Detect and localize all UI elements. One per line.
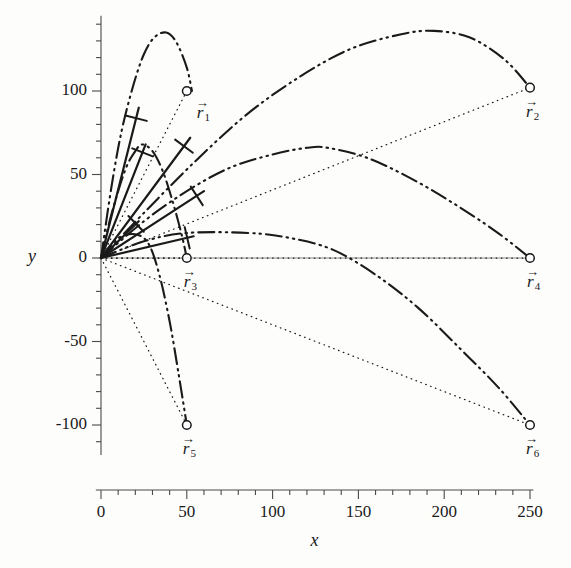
vector-label-r3: →r3 (184, 272, 197, 292)
vector-label-r4: →r4 (527, 272, 540, 292)
vector-subscript: 5 (189, 447, 196, 459)
endpoint-marker (183, 421, 192, 430)
vector-arrow-icon: →r (197, 103, 204, 123)
trajectory-curve (101, 234, 187, 425)
endpoint-marker (183, 87, 192, 96)
y-axis-label: y (28, 246, 36, 267)
y-tick-label-50: 50 (0, 164, 87, 184)
vector-subscript: 6 (533, 447, 540, 459)
y-tick-label-0: 0 (0, 247, 87, 267)
endpoint-marker (183, 254, 192, 263)
y-tick-label-m50: -50 (0, 331, 87, 351)
vector-arrow-icon: →r (183, 439, 190, 459)
vector-label-r5: →r5 (183, 439, 196, 459)
figure-canvas: 100 50 0 -50 -100 0 50 100 150 200 250 x… (0, 0, 571, 568)
vector-label-r6: →r6 (526, 439, 539, 459)
vector-label-r2: →r2 (526, 102, 539, 122)
x-tick-label-50: 50 (157, 502, 217, 522)
velocity-vector (101, 216, 144, 258)
vector-subscript: 4 (534, 280, 541, 292)
x-tick-label-150: 150 (328, 502, 388, 522)
endpoint-marker (526, 421, 535, 430)
trajectory-curve (101, 147, 530, 258)
position-vectors-layer (101, 88, 530, 425)
vector-arrow-icon: →r (526, 439, 533, 459)
endpoint-marker (526, 83, 535, 92)
trajectories-layer (101, 31, 530, 425)
y-tick-label-m100: -100 (0, 414, 87, 434)
x-tick-label-200: 200 (414, 502, 474, 522)
vector-arrow-icon: →r (526, 102, 533, 122)
vector-subscript: 3 (190, 280, 197, 292)
vector-label-r1: →r1 (197, 103, 210, 123)
x-tick-label-250: 250 (500, 502, 560, 522)
position-vector (101, 258, 530, 425)
velocity-vectors-layer (101, 108, 204, 258)
vector-arrow-icon: →r (527, 272, 534, 292)
x-tick-label-0: 0 (71, 502, 131, 522)
endpoint-marker (526, 254, 535, 263)
trajectory-curve (101, 31, 530, 258)
y-tick-label-100: 100 (0, 80, 87, 100)
x-axis-label: x (311, 530, 319, 551)
x-tick-label-100: 100 (243, 502, 303, 522)
endpoint-markers-layer (183, 83, 535, 429)
vector-arrow-icon: →r (184, 272, 191, 292)
vector-subscript: 1 (203, 111, 210, 123)
trajectory-curve (101, 232, 530, 425)
vector-subscript: 2 (533, 110, 540, 122)
